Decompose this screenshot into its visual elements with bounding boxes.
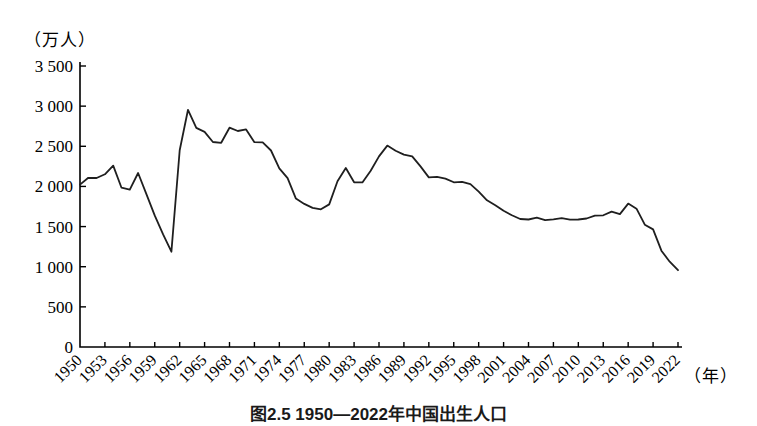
- y-tick-label: 2 500: [35, 137, 73, 156]
- y-tick-label: 500: [48, 298, 74, 317]
- birth-population-line: [80, 110, 678, 270]
- y-tick-label: 1 500: [35, 218, 73, 237]
- x-tick-label: 2022: [648, 351, 683, 386]
- y-tick-label: 2 000: [35, 177, 73, 196]
- axes: [80, 62, 682, 347]
- y-tick-label: 3 000: [35, 97, 73, 116]
- y-axis-unit-label: （万人）: [24, 31, 96, 50]
- y-tick-label: 3 500: [35, 57, 73, 76]
- figure-caption: 图2.5 1950—2022年中国出生人口: [0, 404, 757, 426]
- y-tick-label: 1 000: [35, 258, 73, 277]
- x-axis-unit-label: （年）: [684, 367, 738, 386]
